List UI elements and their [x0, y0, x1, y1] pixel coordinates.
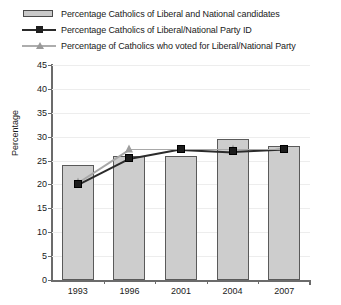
- chart-legend: Percentage Catholics of Liberal and Nati…: [22, 6, 337, 54]
- y-axis-tick-mark: [48, 256, 52, 257]
- bar-candidates-2004: [217, 139, 249, 280]
- x-axis-tick-mark: [258, 280, 259, 284]
- y-axis-tick-mark: [48, 232, 52, 233]
- y-axis-tick-mark: [48, 65, 52, 66]
- data-point-triangle-1996: [125, 144, 133, 152]
- line-segment-triangle: [181, 149, 233, 151]
- x-axis-tick-mark: [207, 280, 208, 284]
- line-square-marker-icon: [22, 24, 56, 35]
- data-point-square-1993: [74, 180, 82, 188]
- y-axis-tick-label: 25: [37, 156, 47, 165]
- line-segment-triangle: [233, 149, 285, 151]
- data-point-square-1996: [125, 154, 133, 162]
- y-axis-tick-label: 5: [42, 252, 47, 261]
- gridline: [52, 113, 310, 114]
- y-axis-tick-label: 15: [37, 204, 47, 213]
- y-axis-title: Percentage: [10, 88, 20, 178]
- x-axis-tick-label: 1996: [119, 287, 139, 296]
- bar-swatch-icon: [22, 8, 56, 19]
- data-point-square-2004: [229, 147, 237, 155]
- legend-item-voted: Percentage of Catholics who voted for Li…: [22, 38, 337, 53]
- line-triangle-marker-icon: [22, 40, 56, 51]
- gridline: [52, 137, 310, 138]
- legend-item-candidates: Percentage Catholics of Liberal and Nati…: [22, 6, 337, 21]
- x-axis-tick-label: 2001: [171, 287, 191, 296]
- y-axis-tick-label: 10: [37, 228, 47, 237]
- y-axis-tick-label: 40: [37, 84, 47, 93]
- y-axis-tick-label: 45: [37, 61, 47, 70]
- y-axis-tick-mark: [48, 89, 52, 90]
- y-axis-tick-mark: [48, 137, 52, 138]
- x-axis-tick-label: 1993: [68, 287, 88, 296]
- bar-candidates-2001: [165, 156, 197, 280]
- legend-label-candidates: Percentage Catholics of Liberal and Nati…: [61, 9, 280, 19]
- bar-candidates-1996: [113, 156, 145, 280]
- y-axis-tick-mark: [48, 208, 52, 209]
- x-axis-end-tick: [309, 280, 311, 285]
- y-axis-tick-mark: [48, 113, 52, 114]
- y-axis-tick-label: 0: [42, 276, 47, 285]
- x-axis-tick-mark: [155, 280, 156, 284]
- legend-label-party-id: Percentage Catholics of Liberal/National…: [61, 25, 252, 35]
- y-axis-tick-mark: [48, 161, 52, 162]
- chart-container: Percentage Catholics of Liberal and Nati…: [0, 0, 341, 305]
- data-point-square-2001: [177, 145, 185, 153]
- y-axis-tick-label: 20: [37, 180, 47, 189]
- y-axis-tick-mark: [48, 280, 52, 281]
- gridline: [52, 89, 310, 90]
- legend-label-voted: Percentage of Catholics who voted for Li…: [61, 41, 296, 51]
- y-axis-tick-label: 35: [37, 108, 47, 117]
- line-segment-triangle: [129, 149, 181, 151]
- y-axis-tick-label: 30: [37, 132, 47, 141]
- gridline: [52, 65, 310, 66]
- plot-area: 05101520253035404519931996200120042007: [52, 65, 310, 280]
- x-axis-tick-label: 2004: [223, 287, 243, 296]
- x-axis-tick-label: 2007: [274, 287, 294, 296]
- bar-candidates-2007: [268, 146, 300, 280]
- legend-item-party-id: Percentage Catholics of Liberal/National…: [22, 22, 337, 37]
- x-axis-tick-mark: [104, 280, 105, 284]
- data-point-square-2007: [280, 145, 288, 153]
- y-axis-tick-mark: [48, 184, 52, 185]
- x-axis-line: [51, 280, 311, 282]
